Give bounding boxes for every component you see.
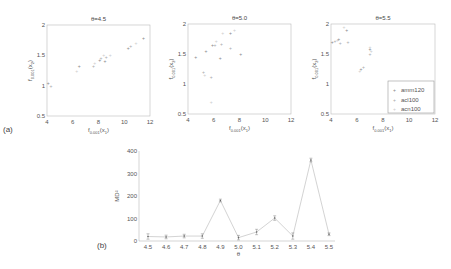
md2-line xyxy=(148,160,329,238)
panel-title: θ=5.0 xyxy=(232,15,248,21)
data-point xyxy=(147,236,149,238)
legend-label: amm120 xyxy=(401,87,425,93)
x-tick-label: 5.2 xyxy=(271,244,280,250)
x-tick-label: 4.7 xyxy=(180,244,189,250)
x-tick-label: 5.3 xyxy=(289,244,298,250)
data-point: + xyxy=(78,63,81,69)
data-point: + xyxy=(203,72,206,78)
y-tick-label: 2 xyxy=(326,21,330,27)
x-tick-label: 8 xyxy=(97,119,101,125)
data-point: + xyxy=(134,40,137,46)
figure: 46810120.511.52θ=4.5f0.001(x1)f0.001(x2)… xyxy=(0,0,451,269)
x-tick-label: 5.4 xyxy=(307,244,316,250)
data-point: + xyxy=(194,54,197,60)
data-point: + xyxy=(229,45,232,51)
data-point: + xyxy=(339,40,342,46)
panel-label-a: (a) xyxy=(3,125,13,134)
y-axis-label: f0.001(x2) xyxy=(311,59,319,80)
x-tick-label: 8 xyxy=(381,117,385,123)
scatter-panel-2: 46810120.511.52θ=5.0f0.001(x1)f0.001(x2)… xyxy=(168,15,295,133)
line-chart-md2: 01002003004004.54.64.74.84.95.05.15.25.3… xyxy=(114,148,335,257)
y-tick-label: 1 xyxy=(183,81,187,87)
data-point: + xyxy=(362,64,365,70)
y-tick-label: 1 xyxy=(42,83,46,89)
x-tick-label: 5.1 xyxy=(252,244,261,250)
data-point: + xyxy=(109,52,112,58)
data-point: + xyxy=(370,48,373,54)
data-point xyxy=(165,236,167,238)
panel-title: θ=5.5 xyxy=(375,15,391,21)
legend-marker: + xyxy=(393,106,396,112)
axes-box xyxy=(47,25,150,116)
y-tick-label: 300 xyxy=(127,171,138,177)
data-point: + xyxy=(346,39,349,45)
x-tick-label: 4.8 xyxy=(198,244,207,250)
scatter-panel-3: 46810120.511.52θ=5.5f0.001(x1)f0.001(x2)… xyxy=(311,15,439,133)
data-point: + xyxy=(129,43,132,49)
data-point: + xyxy=(233,27,236,33)
data-point xyxy=(256,231,258,233)
data-point: + xyxy=(220,41,223,47)
x-tick-label: 10 xyxy=(406,117,413,123)
x-tick-label: 4 xyxy=(329,117,333,123)
y-axis-label: MD² xyxy=(114,190,120,201)
x-tick-label: 12 xyxy=(288,117,295,123)
data-point xyxy=(328,233,330,235)
data-point: + xyxy=(210,74,213,80)
data-point: + xyxy=(49,83,52,89)
x-tick-label: 6 xyxy=(71,119,75,125)
x-tick-label: 4.9 xyxy=(216,244,225,250)
panel-title: θ=4.5 xyxy=(91,16,107,22)
x-tick-label: 4 xyxy=(45,119,49,125)
data-point xyxy=(310,159,312,161)
data-point xyxy=(274,217,276,219)
y-tick-label: 400 xyxy=(127,148,138,154)
y-tick-label: 0.5 xyxy=(321,111,330,117)
scatter-panel-1: 46810120.511.52θ=4.5f0.001(x1)f0.001(x2)… xyxy=(27,16,154,135)
x-axis-label: f0.001(x1) xyxy=(373,125,394,133)
data-point xyxy=(238,237,240,239)
x-axis-label: f0.001(x1) xyxy=(88,127,109,135)
data-point: + xyxy=(142,35,145,41)
data-point xyxy=(183,235,185,237)
data-point xyxy=(202,235,204,237)
y-tick-label: 100 xyxy=(127,216,138,222)
x-axis-label: f0.001(x1) xyxy=(229,125,250,133)
legend: +amm120+acl100+acn100 xyxy=(388,81,434,113)
data-point: + xyxy=(219,55,222,61)
data-point: + xyxy=(215,38,218,44)
x-tick-label: 12 xyxy=(147,119,154,125)
x-tick-label: 10 xyxy=(121,119,128,125)
legend-marker: + xyxy=(393,87,396,93)
y-tick-label: 2 xyxy=(183,21,187,27)
x-tick-label: 4.6 xyxy=(162,244,171,250)
x-tick-label: 6 xyxy=(212,117,216,123)
data-point: + xyxy=(221,30,224,36)
data-point: + xyxy=(93,60,96,66)
data-point: + xyxy=(239,51,242,57)
data-point xyxy=(220,200,222,202)
x-tick-label: 4 xyxy=(186,117,190,123)
legend-label: acl100 xyxy=(401,97,419,103)
y-tick-label: 0 xyxy=(134,238,138,244)
data-point: + xyxy=(345,27,348,33)
y-tick-label: 200 xyxy=(127,193,138,199)
data-point xyxy=(292,235,294,237)
y-tick-label: 0.5 xyxy=(178,111,187,117)
data-point: + xyxy=(229,30,232,36)
x-tick-label: 5.0 xyxy=(234,244,243,250)
y-axis-label: f0.001(x2) xyxy=(27,60,35,81)
data-point: + xyxy=(105,54,108,60)
x-tick-label: 4.5 xyxy=(144,244,153,250)
data-point: + xyxy=(205,48,208,54)
x-tick-label: 12 xyxy=(432,117,439,123)
x-tick-label: 10 xyxy=(262,117,269,123)
y-tick-label: 1 xyxy=(326,81,330,87)
legend-label: acn100 xyxy=(401,106,421,112)
y-tick-label: 2 xyxy=(42,22,46,28)
y-tick-label: 0.5 xyxy=(37,113,46,119)
y-tick-label: 1.5 xyxy=(37,52,46,58)
y-tick-label: 1.5 xyxy=(178,51,187,57)
x-axis-label: θ xyxy=(237,251,241,257)
y-axis-label: f0.001(x2) xyxy=(168,59,176,80)
